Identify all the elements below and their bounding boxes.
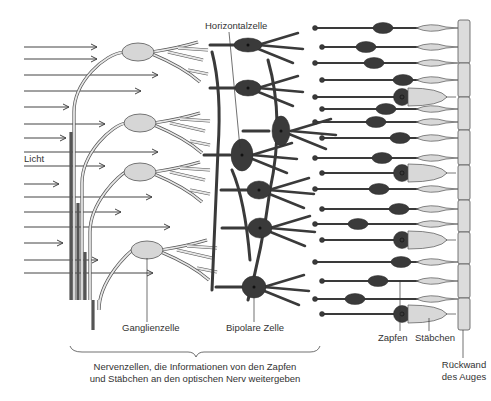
back-wall-label-line2: des Auges <box>440 371 488 383</box>
rod-nucleus <box>369 184 389 195</box>
synaptic-terminal <box>320 45 325 50</box>
synaptic-terminal <box>320 238 325 243</box>
cell-process <box>232 170 250 260</box>
cell-nucleus <box>241 154 244 157</box>
light-arrow <box>24 56 97 62</box>
light-arrow <box>24 194 152 200</box>
rod-cell <box>320 75 459 86</box>
rod-cell <box>320 276 459 287</box>
synaptic-terminal <box>313 95 318 100</box>
rod-nucleus <box>368 276 388 287</box>
cone-outer-segment <box>408 88 447 106</box>
rod-cell <box>313 117 459 128</box>
light-arrow <box>24 240 63 246</box>
cell-nucleus <box>253 286 256 289</box>
cone-outer-segment <box>408 164 447 182</box>
rod-cell <box>313 294 459 305</box>
rod-outer-segment <box>416 60 458 67</box>
cell-axon <box>264 275 304 287</box>
cell-axon <box>252 143 292 155</box>
rod-outer-segment <box>416 119 458 126</box>
ganglion-soma <box>122 43 154 61</box>
synaptic-terminal <box>320 171 325 176</box>
rod-nucleus <box>356 42 376 53</box>
cones-label: Zapfen <box>378 332 408 343</box>
synaptic-terminal <box>313 260 318 265</box>
back-wall-cell <box>458 97 470 130</box>
ganglion-soma <box>124 114 156 132</box>
horizontal-cell <box>210 33 303 63</box>
cell-axon <box>250 158 287 173</box>
light-arrow <box>24 135 66 141</box>
ganglion-cells <box>71 42 217 330</box>
rod-outer-segment <box>416 259 458 266</box>
ganglion-dendrite-inner <box>161 240 207 250</box>
light-arrow <box>24 104 69 110</box>
back-wall <box>458 20 470 330</box>
cone-outer-segment <box>408 305 447 323</box>
cell-axon <box>269 190 314 194</box>
cell-axon <box>291 131 336 135</box>
nerve-cells-caption: Nervenzellen, die Informationen von den … <box>70 361 320 385</box>
horizontal-cell-label: Horizontalzelle <box>205 20 267 31</box>
rod-nucleus <box>373 23 393 34</box>
rod-outer-segment <box>416 186 458 193</box>
light-label: Licht <box>24 153 44 164</box>
light-arrow <box>24 257 98 263</box>
light-arrow <box>24 88 141 94</box>
cell-axon <box>269 178 309 190</box>
rod-outer-segment <box>416 77 458 84</box>
back-wall-label-line1: Rückwand <box>440 359 488 371</box>
back-wall-cell <box>458 298 470 330</box>
light-arrow <box>24 44 97 50</box>
cell-nucleus <box>259 227 262 230</box>
photoreceptors <box>313 23 459 324</box>
light-arrow <box>24 181 59 187</box>
cell-axon <box>258 33 298 45</box>
rod-outer-segment <box>416 221 458 228</box>
ganglion-dendrite-inner <box>170 123 205 131</box>
cell-axon <box>291 119 331 131</box>
rod-cell <box>313 153 459 164</box>
rod-cell <box>320 204 459 215</box>
rod-nucleus <box>372 153 392 164</box>
ganglion-dendrite-inner <box>154 162 200 172</box>
caption-line1: Nervenzellen, die Informationen von den … <box>70 361 320 373</box>
cell-axon <box>258 76 298 88</box>
cell-nucleus <box>258 189 261 192</box>
synaptic-terminal <box>320 107 325 112</box>
light-arrow <box>24 224 170 230</box>
rod-outer-segment <box>416 206 458 213</box>
nerve-cells-brace <box>70 346 320 357</box>
ganglion-dendrite-inner <box>168 52 203 60</box>
rod-nucleus <box>345 294 365 305</box>
ganglion-cell <box>93 240 217 330</box>
rod-outer-segment <box>416 278 458 285</box>
rod-outer-segment <box>416 135 458 142</box>
cone-cell <box>320 231 457 249</box>
synaptic-terminal <box>320 78 325 83</box>
cell-axon <box>258 88 303 92</box>
rod-cell <box>313 23 459 34</box>
back-wall-cell <box>458 264 470 298</box>
ganglion-dendrite-inner <box>152 42 198 52</box>
back-wall-cell <box>458 200 470 232</box>
synaptic-terminal <box>313 61 318 66</box>
cell-nucleus <box>280 130 283 133</box>
rod-nucleus <box>366 117 386 128</box>
synaptic-terminal <box>320 312 325 317</box>
ganglion-cell <box>85 162 210 300</box>
rod-outer-segment <box>416 155 458 162</box>
rod-nucleus <box>390 133 410 144</box>
ganglion-axon <box>99 250 133 310</box>
bipolar-cell-label: Bipolare Zelle <box>226 322 284 333</box>
bipolar-cell <box>222 216 315 246</box>
rod-cell <box>320 42 459 53</box>
cell-axon <box>262 290 299 305</box>
rod-outer-segment <box>416 25 458 32</box>
back-wall-label: Rückwand des Auges <box>440 359 488 383</box>
cone-cell <box>320 305 457 323</box>
rod-cell <box>313 58 459 69</box>
cell-axon <box>258 45 303 49</box>
rod-cell <box>313 257 459 268</box>
